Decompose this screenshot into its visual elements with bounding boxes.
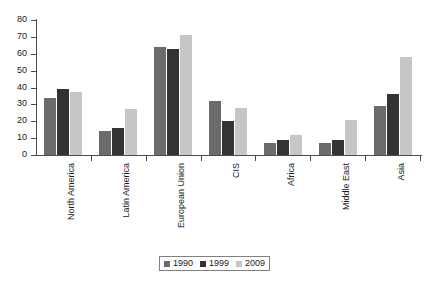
bar xyxy=(264,143,276,155)
bar-group xyxy=(99,20,137,155)
legend-label: 1990 xyxy=(173,259,193,268)
x-axis-category-label: European Union xyxy=(177,163,186,228)
bar xyxy=(99,131,111,155)
bar xyxy=(290,135,302,155)
legend-item: 1990 xyxy=(164,259,193,268)
bar xyxy=(57,89,69,155)
y-axis-tick xyxy=(31,138,36,139)
x-axis-category-label: Middle East xyxy=(342,163,351,210)
x-axis-line xyxy=(36,155,422,156)
x-axis-category-label: Asia xyxy=(397,163,406,181)
bar xyxy=(400,57,412,155)
y-axis-tick xyxy=(31,54,36,55)
legend-item: 2009 xyxy=(236,259,265,268)
legend-swatch-icon xyxy=(200,261,206,267)
x-axis-category-label: Africa xyxy=(287,163,296,186)
legend-swatch-icon xyxy=(164,261,170,267)
bar xyxy=(332,140,344,155)
y-axis-tick xyxy=(31,121,36,122)
x-axis-tick xyxy=(420,156,421,161)
x-axis-tick xyxy=(91,156,92,161)
bar xyxy=(222,121,234,155)
y-axis-tick-label: 10 xyxy=(5,133,27,142)
bar-group xyxy=(319,20,357,155)
y-axis-tick-label: 0 xyxy=(5,150,27,159)
bar-chart: 01020304050607080 North AmericaLatin Ame… xyxy=(0,0,429,282)
y-axis-tick-label: 50 xyxy=(5,66,27,75)
y-axis-tick-label: 80 xyxy=(5,15,27,24)
y-axis-tick xyxy=(31,37,36,38)
bar xyxy=(112,128,124,155)
bar xyxy=(209,101,221,155)
y-axis-tick-label: 30 xyxy=(5,99,27,108)
chart-legend: 199019992009 xyxy=(159,256,270,271)
bar xyxy=(374,106,386,155)
y-axis-tick-label: 60 xyxy=(5,49,27,58)
bar xyxy=(277,140,289,155)
x-axis-tick xyxy=(310,156,311,161)
bar-group xyxy=(154,20,192,155)
x-axis-tick xyxy=(146,156,147,161)
y-axis-tick-label: 70 xyxy=(5,32,27,41)
bar xyxy=(125,109,137,155)
bar-group xyxy=(264,20,302,155)
x-axis-category-label: Latin America xyxy=(122,163,131,218)
x-axis-tick xyxy=(201,156,202,161)
legend-item: 1999 xyxy=(200,259,229,268)
bar xyxy=(180,35,192,155)
plot-area xyxy=(36,20,420,155)
bar xyxy=(70,92,82,155)
legend-label: 2009 xyxy=(245,259,265,268)
bar xyxy=(387,94,399,155)
y-axis-tick xyxy=(31,71,36,72)
x-axis-category-label: CIS xyxy=(232,163,241,178)
bar-group xyxy=(44,20,82,155)
y-axis-tick-label: 40 xyxy=(5,83,27,92)
bar xyxy=(345,120,357,155)
bar-group xyxy=(209,20,247,155)
bar-group xyxy=(374,20,412,155)
bar xyxy=(319,143,331,155)
y-axis-tick xyxy=(31,20,36,21)
y-axis-tick-label: 20 xyxy=(5,116,27,125)
x-axis-tick xyxy=(365,156,366,161)
bar xyxy=(235,108,247,155)
x-axis-category-label: North America xyxy=(67,163,76,220)
legend-swatch-icon xyxy=(236,261,242,267)
bar xyxy=(154,47,166,155)
bar xyxy=(44,98,56,155)
y-axis-tick xyxy=(31,88,36,89)
x-axis-tick xyxy=(255,156,256,161)
bar xyxy=(167,49,179,155)
y-axis-tick xyxy=(31,104,36,105)
y-axis-tick xyxy=(31,155,36,156)
legend-label: 1999 xyxy=(209,259,229,268)
